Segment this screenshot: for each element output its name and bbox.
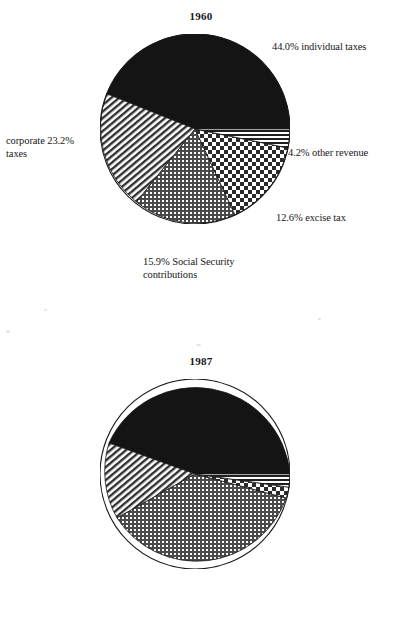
- label-social-security-1960: 15.9% Social Security contributions: [143, 255, 273, 281]
- scan-speck: [6, 330, 10, 333]
- label-social-security-line1: 15.9% Social Security: [143, 256, 235, 267]
- pie-svg-1987: [100, 379, 290, 569]
- scan-speck: [318, 318, 321, 320]
- scan-speck: [44, 309, 47, 311]
- pie-graphic-1960: [100, 34, 290, 224]
- scan-speck: [196, 344, 201, 346]
- pie-chart-1987: 1987: [0, 314, 402, 628]
- pie-graphic-1987: [100, 379, 290, 569]
- label-corporate-taxes-line1: corporate 23.2%: [6, 135, 74, 146]
- label-social-security-line2: contributions: [143, 269, 197, 280]
- label-corporate-taxes-1960: corporate 23.2% taxes: [6, 134, 102, 160]
- pie-svg-1960: [100, 34, 290, 224]
- chart-title-1960: 1960: [0, 10, 402, 22]
- label-individual-taxes-1960: 44.0% individual taxes: [272, 40, 366, 53]
- label-corporate-taxes-line2: taxes: [6, 148, 27, 159]
- label-other-revenue-1960: 4.2% other revenue: [288, 146, 368, 159]
- chart-title-1987: 1987: [0, 355, 402, 367]
- pie-chart-1960: 1960: [0, 0, 402, 314]
- label-excise-tax-1960: 12.6% excise tax: [276, 211, 346, 224]
